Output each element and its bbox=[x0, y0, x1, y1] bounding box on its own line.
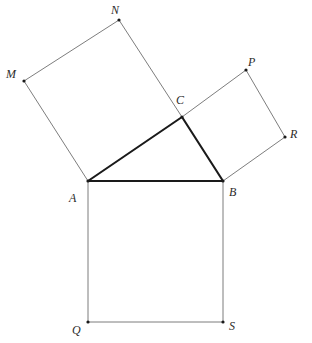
pythagorean-diagram: ABCMNPRQS bbox=[0, 0, 312, 343]
vertex-label-s: S bbox=[229, 320, 235, 332]
vertex-label-m: M bbox=[6, 68, 16, 80]
vertex-dot-s bbox=[221, 320, 224, 323]
vertex-label-a: A bbox=[69, 192, 76, 204]
vertex-dot-c bbox=[180, 115, 183, 118]
vertex-dot-r bbox=[283, 135, 286, 138]
segment-rb bbox=[223, 137, 285, 181]
vertex-label-q: Q bbox=[72, 324, 81, 336]
segment-cn bbox=[119, 20, 182, 117]
vertex-label-n: N bbox=[111, 4, 119, 16]
segment-pr bbox=[246, 70, 285, 137]
vertex-label-b: B bbox=[229, 186, 236, 198]
triangle-edges-group bbox=[88, 117, 223, 181]
diagram-canvas bbox=[0, 0, 312, 343]
vertex-dot-n bbox=[117, 18, 120, 21]
square-edges-group bbox=[24, 20, 285, 322]
vertex-dot-q bbox=[86, 320, 89, 323]
vertex-dot-a bbox=[86, 179, 89, 182]
vertex-dot-m bbox=[22, 79, 25, 82]
segment-cb bbox=[182, 117, 223, 181]
vertex-label-c: C bbox=[176, 94, 184, 106]
segment-cp bbox=[182, 70, 246, 117]
vertex-dots-group bbox=[22, 18, 286, 323]
vertex-label-p: P bbox=[248, 56, 255, 68]
segment-ac bbox=[88, 117, 182, 181]
vertex-dot-b bbox=[221, 179, 224, 182]
vertex-label-r: R bbox=[290, 128, 297, 140]
segment-nm bbox=[24, 20, 119, 81]
segment-ma bbox=[24, 81, 88, 181]
